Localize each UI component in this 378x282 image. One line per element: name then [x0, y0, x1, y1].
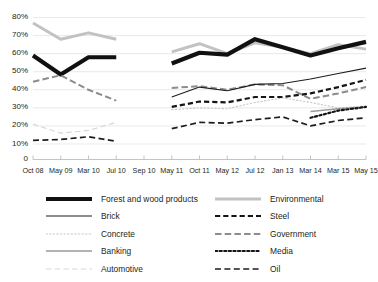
- y-tick-label: 30%: [0, 102, 28, 111]
- legend-item[interactable]: Steel: [215, 208, 324, 226]
- legend-item-label: Banking: [101, 247, 131, 255]
- dotted-bold-black-line-icon: [215, 245, 261, 257]
- legend-item-label: Brick: [101, 212, 120, 220]
- y-tick-label: 70%: [0, 30, 28, 39]
- legend-item[interactable]: Environmental: [215, 190, 324, 208]
- legend-item-label: Media: [270, 247, 293, 255]
- series-line: [33, 137, 116, 142]
- x-tick-label: Mar 14: [299, 166, 321, 175]
- series-line: [172, 117, 366, 129]
- x-tick-label: Sep 10: [133, 166, 156, 175]
- legend-item-label: Oil: [270, 265, 280, 273]
- legend-item[interactable]: Automotive: [46, 260, 198, 278]
- legend-item-label: Steel: [270, 212, 289, 220]
- y-tick-label: 40%: [0, 84, 28, 93]
- series-line: [33, 23, 116, 39]
- x-tick-label: Mar 15: [327, 166, 349, 175]
- y-tick-label: 80%: [0, 12, 28, 21]
- legend-item[interactable]: Banking: [46, 243, 198, 261]
- solid-thin-dark-line-icon: [46, 210, 92, 222]
- series-line: [33, 75, 116, 100]
- legend-item-label: Forest and wood products: [101, 195, 198, 203]
- dashed-very-light-line-icon: [46, 263, 92, 275]
- legend-item-label: Environmental: [270, 195, 324, 203]
- x-tick-label: Jan 13: [272, 166, 294, 175]
- legend-item-label: Automotive: [101, 265, 143, 273]
- x-tick-label: Jul 10: [107, 166, 126, 175]
- x-tick-label: May 12: [215, 166, 239, 175]
- legend-item-label: Government: [270, 230, 316, 238]
- y-tick-label: 0: [0, 154, 28, 163]
- y-tick-label: 50%: [0, 66, 28, 75]
- x-tick-marks: [33, 156, 366, 160]
- legend-column-right: EnvironmentalSteelGovernmentMediaOil: [215, 190, 324, 278]
- series-line: [33, 122, 116, 133]
- dotted-light-line-icon: [46, 228, 92, 240]
- legend-column-left: Forest and wood productsBrickConcreteBan…: [46, 190, 198, 278]
- x-tick-label: Mar 10: [77, 166, 99, 175]
- legend-item[interactable]: Oil: [215, 260, 324, 278]
- x-tick-label: May 11: [160, 166, 183, 175]
- x-tick-label: May 15: [354, 166, 378, 175]
- legend-item[interactable]: Brick: [46, 208, 198, 226]
- x-tick-label: Jul 12: [245, 166, 264, 175]
- solid-gray-line-icon: [46, 245, 92, 257]
- legend-item[interactable]: Concrete: [46, 225, 198, 243]
- legend-item[interactable]: Government: [215, 225, 324, 243]
- y-tick-label: 10%: [0, 139, 28, 148]
- dashed-bold-black-line-icon: [215, 210, 261, 222]
- legend-item[interactable]: Forest and wood products: [46, 190, 198, 208]
- solid-thick-black-line-icon: [46, 193, 92, 205]
- plot-svg: [0, 0, 372, 186]
- x-tick-label: Oct 11: [189, 166, 210, 175]
- dash-dot-gray-line-icon: [215, 228, 261, 240]
- x-tick-label: Oct 08: [22, 166, 43, 175]
- solid-light-gray-line-icon: [215, 193, 261, 205]
- data-series-group: [33, 23, 366, 141]
- legend-item[interactable]: Media: [215, 243, 324, 261]
- legend-item-label: Concrete: [101, 230, 135, 238]
- y-tick-label: 20%: [0, 120, 28, 129]
- y-tick-label: 60%: [0, 48, 28, 57]
- dashed-black-line-icon: [215, 263, 261, 275]
- chart-legend: Forest and wood productsBrickConcreteBan…: [0, 190, 372, 282]
- plot-area: 010%20%30%40%50%60%70%80% Oct 08May 09Ma…: [0, 0, 372, 186]
- x-tick-label: May 09: [49, 166, 73, 175]
